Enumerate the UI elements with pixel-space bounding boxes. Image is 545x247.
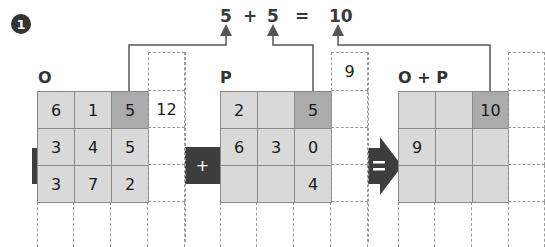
grid-cell (435, 128, 473, 166)
grid-cell: 3 (37, 165, 75, 203)
equation-equals: = (295, 6, 309, 26)
equation-left-operand: 5 (220, 6, 232, 26)
dashed-cell (508, 128, 545, 165)
grid-cell: 4 (294, 165, 332, 203)
dashed-cell (257, 202, 294, 247)
grid-cell (257, 165, 295, 203)
grid-p-label: P (220, 68, 232, 87)
dashed-cell (508, 165, 545, 202)
dashed-cell (508, 202, 545, 247)
dashed-cell (37, 202, 74, 247)
equals-arrow-icon (368, 137, 402, 195)
dashed-guide (368, 52, 369, 242)
grid-cell: 0 (294, 128, 332, 166)
dashed-cell (148, 52, 185, 91)
grid-cell (435, 165, 473, 203)
grid-cell: 6 (37, 91, 75, 129)
dashed-cell (508, 52, 545, 91)
dashed-cell: 12 (148, 91, 185, 128)
grid-cell: 3 (257, 128, 295, 166)
grid-cell: 5 (111, 128, 149, 166)
grid-cell: 3 (37, 128, 75, 166)
dashed-cell (331, 128, 368, 165)
grid-cell (220, 165, 258, 203)
equation-plus: + (243, 6, 257, 26)
dashed-cell (331, 91, 368, 128)
dashed-cell (472, 202, 509, 247)
equation-right-operand: 5 (267, 6, 279, 26)
dashed-cell: 9 (331, 52, 368, 91)
dashed-cell (148, 128, 185, 165)
dashed-cell (331, 165, 368, 202)
step-number-badge: 1 (11, 14, 31, 34)
dashed-cell (111, 202, 148, 247)
grid-cell (435, 91, 473, 129)
grid-cell (398, 165, 436, 203)
grid-cell (398, 91, 436, 129)
grid-cell-highlighted: 5 (294, 91, 332, 129)
grid-cell (472, 165, 509, 203)
dashed-cell (74, 202, 111, 247)
dashed-cell (294, 202, 331, 247)
dashed-guide (185, 52, 186, 242)
dashed-cell (148, 165, 185, 202)
grid-sum-label: O + P (398, 68, 448, 87)
grid-cell: 2 (111, 165, 149, 203)
grid-cell (472, 128, 509, 166)
dashed-cell (435, 202, 472, 247)
grid-cell: 6 (220, 128, 258, 166)
dashed-cell (398, 202, 435, 247)
grid-cell-highlighted: 10 (472, 91, 509, 129)
dashed-cell (148, 202, 185, 247)
grid-cell: 7 (74, 165, 112, 203)
grid-o-label: O (38, 68, 52, 87)
grid-cell: 2 (220, 91, 258, 129)
grid-o-edge-marker (32, 148, 37, 184)
grid-cell-highlighted: 5 (111, 91, 149, 129)
grid-cell (257, 91, 295, 129)
dashed-cell (508, 91, 545, 128)
equation-result: 10 (329, 6, 353, 26)
grid-cell: 1 (74, 91, 112, 129)
dashed-cell (220, 202, 257, 247)
plus-operator-icon: + (185, 147, 220, 184)
grid-cell: 4 (74, 128, 112, 166)
grid-cell: 9 (398, 128, 436, 166)
dashed-cell (331, 202, 368, 247)
